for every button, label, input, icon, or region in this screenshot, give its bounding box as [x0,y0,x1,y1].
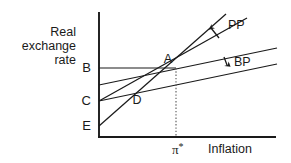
y-axis-title-line-3: rate [54,53,76,67]
curve-pp-shifted [99,14,226,126]
y-axis-title-line-2: exchange [22,39,76,53]
diagram-canvas: Real exchange rate B C E A D PP BP π* In… [0,0,291,163]
pi-superscript-star: * [179,141,184,152]
curve-label-pp: PP [228,18,245,32]
point-label-a: A [164,52,173,66]
curve-label-bp: BP [234,55,251,69]
economics-diagram-figure: Real exchange rate B C E A D PP BP π* In… [0,0,291,163]
y-tick-label-e: E [82,118,91,133]
x-tick-label-pi-star: π* [172,141,184,157]
curve-bp-lower [99,64,277,101]
y-axis-title-line-1: Real [50,25,76,39]
point-label-d: D [132,93,141,107]
x-axis-title: Inflation [208,142,252,156]
y-tick-label-c: C [82,93,91,108]
y-tick-label-b: B [82,60,91,75]
